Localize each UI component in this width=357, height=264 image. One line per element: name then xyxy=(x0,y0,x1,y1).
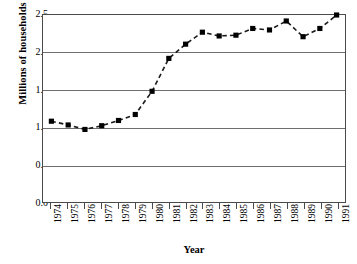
x-tick-mark xyxy=(321,203,322,209)
y-axis-title: Millions of households xyxy=(17,0,28,134)
x-tick-mark xyxy=(169,203,170,209)
x-axis-title: Year xyxy=(42,244,346,255)
x-tick-label: 1977 xyxy=(105,179,115,223)
x-tick-mark xyxy=(219,203,220,209)
x-tick-mark xyxy=(287,203,288,209)
x-tick-mark xyxy=(101,203,102,209)
x-tick-mark xyxy=(186,203,187,209)
x-tick-mark xyxy=(236,203,237,209)
data-point-marker xyxy=(66,122,71,127)
x-tick-label: 1981 xyxy=(173,179,183,223)
x-tick-label: 1979 xyxy=(139,179,149,223)
x-tick-mark xyxy=(67,203,68,209)
x-tick-label: 1978 xyxy=(122,179,132,223)
x-tick-label: 1975 xyxy=(71,179,81,223)
x-tick-label: 1988 xyxy=(291,179,301,223)
data-point-marker xyxy=(133,112,138,117)
x-tick-mark xyxy=(84,203,85,209)
data-point-marker xyxy=(99,123,104,128)
data-series-line xyxy=(43,15,345,202)
plot-area xyxy=(42,14,346,203)
chart-figure: Millions of households 0.00.51.01.52.02.… xyxy=(0,0,357,264)
x-tick-mark xyxy=(253,203,254,209)
data-point-marker xyxy=(267,27,272,32)
x-tick-mark xyxy=(304,203,305,209)
x-tick-label: 1984 xyxy=(223,179,233,223)
data-point-marker xyxy=(334,12,339,17)
data-point-marker xyxy=(233,33,238,38)
x-tick-label: 1989 xyxy=(308,179,318,223)
data-point-marker xyxy=(149,89,154,94)
data-point-marker xyxy=(49,119,54,124)
x-tick-label: 1982 xyxy=(190,179,200,223)
x-tick-mark xyxy=(50,203,51,209)
x-tick-label: 1987 xyxy=(274,179,284,223)
x-tick-mark xyxy=(152,203,153,209)
x-tick-mark xyxy=(338,203,339,209)
data-point-marker xyxy=(300,34,305,39)
data-point-marker xyxy=(116,118,121,123)
data-point-marker xyxy=(284,18,289,23)
x-tick-label: 1974 xyxy=(54,179,64,223)
data-point-marker xyxy=(166,56,171,61)
data-point-marker xyxy=(82,127,87,132)
x-tick-label: 1986 xyxy=(257,179,267,223)
x-tick-mark xyxy=(270,203,271,209)
x-tick-mark xyxy=(135,203,136,209)
data-point-marker xyxy=(250,26,255,31)
x-tick-label: 1976 xyxy=(88,179,98,223)
data-point-marker xyxy=(317,26,322,31)
x-tick-label: 1985 xyxy=(240,179,250,223)
data-point-marker xyxy=(200,30,205,35)
x-tick-label: 1990 xyxy=(325,179,335,223)
x-tick-mark xyxy=(202,203,203,209)
x-tick-label: 1980 xyxy=(156,179,166,223)
series-polyline xyxy=(51,15,336,129)
data-point-marker xyxy=(217,33,222,38)
x-tick-label: 1983 xyxy=(206,179,216,223)
x-tick-label: 1991 xyxy=(342,179,352,223)
x-tick-mark xyxy=(118,203,119,209)
data-point-marker xyxy=(183,42,188,47)
